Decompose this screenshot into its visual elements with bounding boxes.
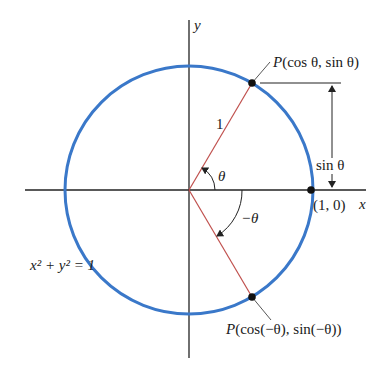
point-upper-label: P(cos θ, sin θ) (272, 54, 359, 71)
angle-theta-arc (202, 168, 215, 190)
x-axis-label: x (358, 196, 366, 212)
point-lower (248, 293, 256, 301)
point-upper (248, 79, 256, 87)
circle-equation-label: x² + y² = 1 (29, 257, 95, 273)
unit-circle-diagram: y x P(cos θ, sin θ) P(cos(−θ), sin(−θ)) … (0, 0, 388, 375)
point-unit (307, 186, 315, 194)
point-lower-label: P(cos(−θ), sin(−θ)) (225, 321, 341, 338)
sin-dimension-label: sin θ (316, 157, 344, 173)
leader-lower (252, 297, 271, 320)
y-axis-label: y (192, 17, 201, 33)
leader-upper (252, 62, 270, 83)
angle-neg-theta-label: −θ (241, 210, 259, 226)
angle-neg-theta-arc (217, 190, 242, 236)
radius-length-label: 1 (216, 116, 224, 132)
angle-theta-label: θ (218, 168, 226, 184)
radius-negative (189, 190, 252, 297)
unit-point-label: (1, 0) (313, 197, 346, 214)
